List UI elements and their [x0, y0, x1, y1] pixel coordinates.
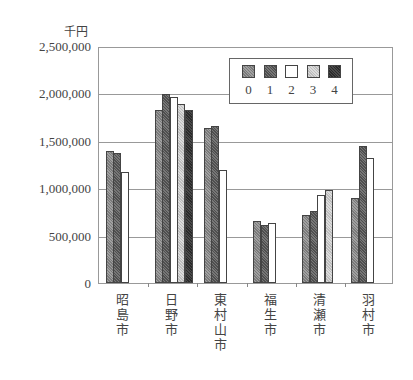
- gridline: [99, 189, 392, 190]
- legend-item: 3: [307, 65, 323, 98]
- legend-swatch: [242, 65, 255, 78]
- y-tick-label: 0: [85, 277, 92, 291]
- x-tick: [148, 283, 149, 287]
- bar-昭島市-series-2: [121, 172, 129, 283]
- legend-item: 2: [285, 65, 301, 98]
- legend-swatch: [264, 65, 277, 78]
- x-tick: [197, 283, 198, 287]
- y-axis-unit-label: 千円: [64, 22, 88, 40]
- legend-item: 0: [242, 65, 258, 98]
- x-category-label: 東村山市: [214, 292, 228, 352]
- legend-item: 1: [264, 65, 280, 98]
- y-tick-label: 2,500,000: [39, 40, 91, 54]
- y-tick-label: 2,000,000: [39, 87, 91, 101]
- gridline: [99, 142, 392, 143]
- legend-swatch: [285, 65, 298, 78]
- bar-東村山市-series-2: [219, 170, 227, 283]
- bar-羽村市-series-2: [366, 158, 374, 283]
- x-category-label: 日野市: [165, 292, 179, 337]
- y-tick-label: 500,000: [49, 230, 91, 244]
- x-category-label: 福生市: [263, 292, 277, 337]
- gridline: [99, 237, 392, 238]
- bar-福生市-series-2: [268, 223, 276, 283]
- legend-label: 0: [242, 82, 255, 98]
- y-tick-label: 1,500,000: [39, 135, 91, 149]
- legend-label: 3: [307, 82, 320, 98]
- x-tick: [296, 283, 297, 287]
- x-category-label: 清瀬市: [312, 292, 326, 337]
- bar-chart: 千円 2,500,0002,000,0001,500,0001,000,0005…: [0, 0, 413, 380]
- bar-清瀬市-series-3: [325, 190, 333, 283]
- legend-label: 2: [285, 82, 298, 98]
- x-category-label: 羽村市: [361, 292, 375, 337]
- x-tick: [247, 283, 248, 287]
- bar-日野市-series-4: [185, 110, 193, 283]
- x-tick: [345, 283, 346, 287]
- legend-swatch: [307, 65, 320, 78]
- legend-item: 4: [328, 65, 344, 98]
- legend-label: 1: [264, 82, 277, 98]
- legend: 01234: [229, 58, 353, 104]
- x-category-label: 昭島市: [116, 292, 130, 337]
- legend-swatch: [328, 65, 341, 78]
- legend-label: 4: [328, 82, 341, 98]
- y-tick-label: 1,000,000: [39, 182, 91, 196]
